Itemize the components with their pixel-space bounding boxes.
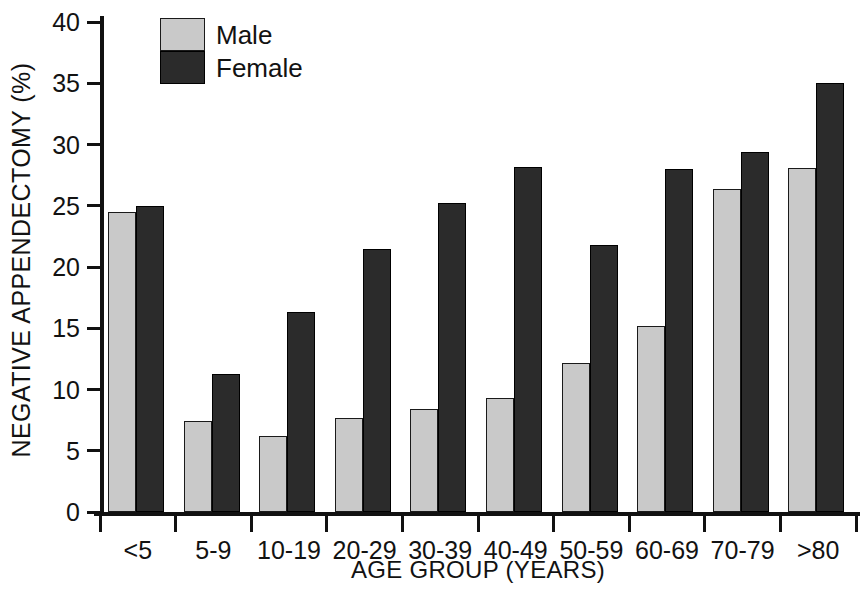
y-axis-tick-label: 15 [52,316,80,341]
y-axis-tick-label: 30 [52,132,80,157]
x-axis-tick [855,512,858,532]
bar-female [438,203,466,512]
bar-male [259,436,287,512]
y-axis-tick: 30 [87,143,100,146]
y-axis-tick-label: 5 [66,438,80,463]
bar-male [713,189,741,512]
y-axis-title: NEGATIVE APPENDECTOMY (%) [4,0,38,520]
bar-male [184,421,212,512]
legend-item: Male [160,18,303,51]
x-axis-tick [628,512,631,532]
bar-female [363,249,391,512]
x-axis-tick [325,512,328,532]
bar-group [705,22,781,512]
male-swatch [160,18,205,51]
y-axis-tick-label: 10 [52,377,80,402]
x-axis-tick [99,512,102,532]
x-axis-tick [250,512,253,532]
y-axis-tick: 5 [87,449,100,452]
y-axis-tick-label: 40 [52,10,80,35]
bar-male [788,168,816,512]
bar-group [780,22,856,512]
y-axis-tick: 20 [87,266,100,269]
y-axis-tick-label: 0 [66,500,80,525]
x-axis-tick [401,512,404,532]
bar-group [629,22,705,512]
y-axis-tick: 25 [87,204,100,207]
y-axis-tick: 40 [87,21,100,24]
bar-male [108,212,136,512]
bar-male [410,409,438,512]
bar-group [478,22,554,512]
x-axis-tick [779,512,782,532]
bar-group [402,22,478,512]
bar-chart-figure: NEGATIVE APPENDECTOMY (%) 05101520253035… [0,0,868,591]
plot-area: 0510152025303540 <55-910-1920-2930-3940-… [100,22,856,512]
x-axis-tick [552,512,555,532]
bar-group [327,22,403,512]
bar-female [287,312,315,512]
y-axis-tick: 35 [87,82,100,85]
y-axis-tick: 10 [87,388,100,391]
bar-female [212,374,240,512]
y-axis-tick-label: 35 [52,71,80,96]
legend-label: Male [216,22,272,48]
x-axis-tick [703,512,706,532]
female-swatch [160,51,205,84]
y-axis-tick: 15 [87,327,100,330]
bar-group [176,22,252,512]
bar-male [486,398,514,512]
bar-female [665,169,693,512]
bar-female [590,245,618,512]
bar-male [335,418,363,512]
bar-group [251,22,327,512]
x-axis-tick [174,512,177,532]
legend-label: Female [216,55,303,81]
bar-female [136,206,164,512]
bar-female [514,167,542,512]
bar-group [100,22,176,512]
bar-female [741,152,769,512]
y-axis-tick-label: 25 [52,193,80,218]
y-axis-tick-label: 20 [52,255,80,280]
legend-item: Female [160,51,303,84]
bar-female [816,83,844,512]
x-axis-title: AGE GROUP (YEARS) [100,556,856,584]
bar-group [554,22,630,512]
x-axis-tick [477,512,480,532]
bars-layer [100,22,856,512]
bar-male [637,326,665,512]
chart-legend: MaleFemale [160,18,303,84]
bar-male [562,363,590,512]
